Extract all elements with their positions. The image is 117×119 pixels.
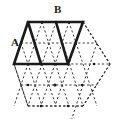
lattice-diagram-svg: [0, 0, 117, 119]
lattice-dot: [93, 63, 96, 66]
lattice-dot: [81, 84, 84, 87]
vertex-label-b: B: [54, 4, 61, 15]
figure-container: A B: [0, 0, 117, 119]
lattice-diag-a6: [69, 43, 97, 119]
lattice-dot: [67, 105, 70, 108]
lattice-dot: [27, 84, 30, 87]
lattice-dot: [40, 105, 43, 108]
dashed-lattice-group: [14, 22, 110, 119]
lattice-dot: [53, 83, 56, 86]
vertex-label-a: A: [11, 37, 19, 48]
